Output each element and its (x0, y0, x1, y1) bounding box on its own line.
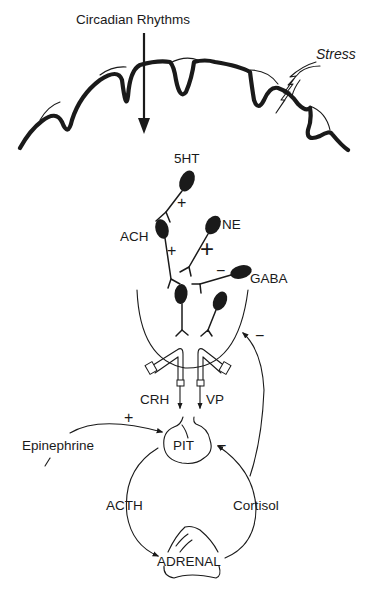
acth-label: ACTH (106, 498, 143, 513)
vp-label: VP (206, 392, 224, 407)
circadian-arrow (138, 33, 150, 134)
hpa-axis-diagram: Circadian Rhythms Stress 5HT + ACH + NE … (0, 0, 380, 593)
cortisol-hypothalamus-arrow (243, 333, 264, 476)
epinephrine-arrow (70, 424, 162, 433)
epinephrine-tick (45, 458, 50, 466)
cortisol-hypothalamus-sign: − (255, 327, 264, 344)
circadian-rhythms-label: Circadian Rhythms (76, 12, 190, 27)
ach-label: ACH (120, 229, 149, 244)
hypothalamus (137, 283, 248, 368)
stress-label: Stress (316, 46, 356, 62)
ach-sign: + (167, 242, 176, 259)
gaba-label: GABA (250, 271, 288, 286)
cortisol-label: Cortisol (233, 498, 279, 513)
ne-label: NE (222, 217, 241, 232)
adrenal-label: ADRENAL (157, 554, 221, 569)
crh-label: CRH (140, 392, 169, 407)
5ht-sign: + (177, 194, 186, 211)
ne-sign: + (200, 235, 214, 262)
epinephrine-label: Epinephrine (22, 438, 94, 453)
pit-label: PIT (173, 438, 194, 453)
adrenal-gland (164, 526, 220, 578)
epinephrine-sign: + (124, 409, 133, 426)
5ht-label: 5HT (174, 151, 200, 166)
gaba-sign: − (216, 262, 225, 279)
cerebral-cortex (20, 58, 348, 150)
